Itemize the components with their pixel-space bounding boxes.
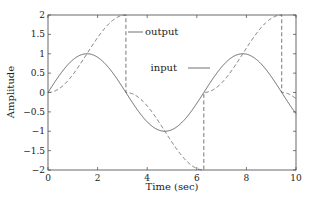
x-tick-label: 2: [95, 173, 101, 183]
y-tick-label: 1: [39, 49, 45, 59]
y-tick-label: 1.5: [31, 29, 46, 39]
input-annotation-label: input: [151, 62, 178, 73]
y-tick-label: −0.5: [23, 107, 45, 117]
y-tick-label: 2: [39, 10, 45, 20]
x-tick-label: 10: [290, 173, 302, 183]
output-annotation-label: output: [145, 26, 178, 37]
output-annotation: output: [128, 26, 178, 37]
x-tick-label: 8: [244, 173, 250, 183]
axes-frame: [48, 15, 296, 170]
y-tick-label: 0.5: [31, 68, 46, 78]
x-tick-label: 0: [45, 173, 51, 183]
series-group: [48, 15, 296, 170]
y-axis-label: Amplitude: [5, 66, 16, 119]
y-tick-label: −1.5: [23, 146, 45, 156]
input-annotation: input: [151, 62, 211, 73]
y-tick-label: −2: [32, 165, 45, 175]
x-axis-label: Time (sec): [146, 181, 199, 192]
y-tick-label: −1: [32, 126, 45, 136]
output-series-line: [48, 15, 296, 170]
amplitude-chart: 0246810−2−1.5−1−0.500.511.52 Time (sec) …: [0, 0, 314, 204]
y-tick-label: 0: [39, 88, 45, 98]
